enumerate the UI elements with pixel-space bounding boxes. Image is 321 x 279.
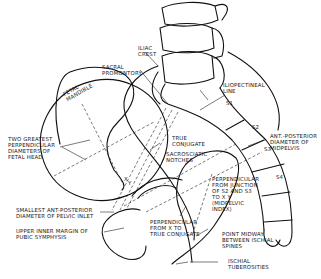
label-true-conjugate: TRUE CONJUGATE (172, 135, 205, 147)
label-point-midway: POINT MIDWAY BETWEEN ISCHIAL SPINES (222, 231, 274, 249)
label-two-greatest-diameters: TWO GREATEST PERPENDICULAR DIAMETERS OF … (8, 136, 55, 160)
label-sacrosciatic-notches: SACROSCIATIC NOTCHES (166, 151, 207, 163)
label-iliac-crest: ILIAC CREST (138, 45, 156, 57)
label-iliopectineal-line: ILIOPECTINEAL LINE (223, 82, 265, 94)
pelvis-diagram: ILIAC CREST SACRAL PROMONTORY FETAL MAND… (0, 0, 321, 279)
label-smallest-ap-diameter: SMALLEST ANT-POSTERIOR DIAMETER OF PELVI… (16, 207, 93, 219)
label-perpendicular-from-x: PERPENDICULAR FROM X TO TRUE CONJUGATE (150, 219, 200, 237)
label-s1: S1 (226, 100, 233, 106)
label-upper-inner-margin: UPPER INNER MARGIN OF PUBIC SYMPHYSIS (16, 228, 88, 240)
label-ischial-tuberosities: ISCHIAL TUBEROSITIES (228, 258, 269, 270)
label-s4: S4 (276, 174, 283, 180)
label-s2: S2 (252, 124, 259, 130)
label-y-mark: Y (128, 180, 131, 186)
label-sacral-promontory: SACRAL PROMONTORY (102, 64, 142, 76)
label-perpendicular-s2-s3: PERPENDICULAR FROM JUNCTION OF S2 and S3… (212, 176, 259, 212)
label-ant-posterior-midpelvis: ANT.-POSTERIOR DIAMETER OF MIDPELVIS (270, 133, 317, 151)
